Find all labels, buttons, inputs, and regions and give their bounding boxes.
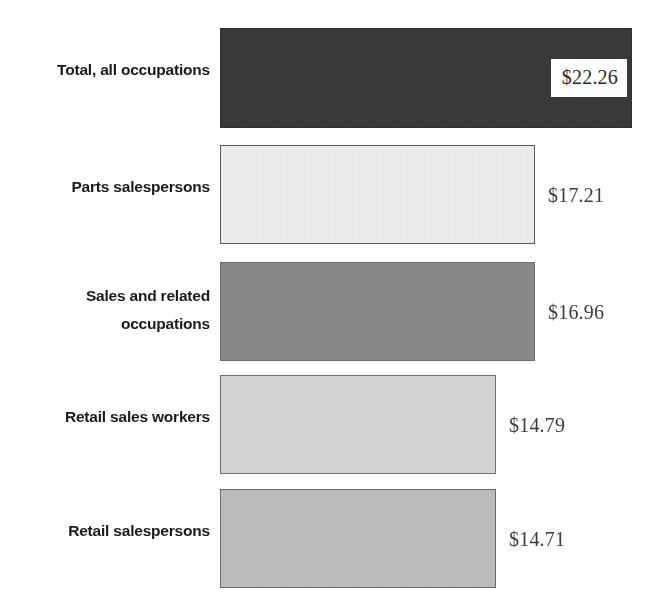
bar[interactable]: $17.21 <box>220 145 535 244</box>
category-label: Sales and related occupations <box>10 282 220 338</box>
category-label-line1: Sales and related <box>86 287 210 304</box>
category-label-line1: Parts salespersons <box>71 178 210 195</box>
bar-row: Sales and related occupations $16.96 <box>0 262 657 361</box>
bar-value-label: $22.26 <box>551 59 627 97</box>
category-label: Retail salespersons <box>10 521 220 541</box>
bar[interactable]: $14.71 <box>220 489 496 588</box>
category-label: Total, all occupations <box>10 60 220 80</box>
bar-row: Total, all occupations $22.26 <box>0 28 657 128</box>
bar-row: Retail salespersons $14.71 <box>0 489 657 588</box>
category-label: Retail sales workers <box>10 407 220 427</box>
bar-value-label: $16.96 <box>548 300 604 323</box>
bar-row: Parts salespersons $17.21 <box>0 145 657 244</box>
bar[interactable]: $16.96 <box>220 262 535 361</box>
bar-value-label: $14.79 <box>509 413 565 436</box>
category-label-line1: Retail salespersons <box>68 522 210 539</box>
bar-value-label: $17.21 <box>548 183 604 206</box>
category-label-line1: Total, all occupations <box>57 61 210 78</box>
bar[interactable]: $22.26 <box>220 28 632 128</box>
bar-value-label: $14.71 <box>509 527 565 550</box>
category-label-line2: occupations <box>10 310 210 338</box>
bar-chart-plot-area: Total, all occupations $22.26 Parts sale… <box>0 0 657 603</box>
chart-page: Total, all occupations $22.26 Parts sale… <box>0 0 657 603</box>
category-label-line1: Retail sales workers <box>65 408 210 425</box>
bar-row: Retail sales workers $14.79 <box>0 375 657 474</box>
category-label: Parts salespersons <box>10 177 220 197</box>
bar[interactable]: $14.79 <box>220 375 496 474</box>
